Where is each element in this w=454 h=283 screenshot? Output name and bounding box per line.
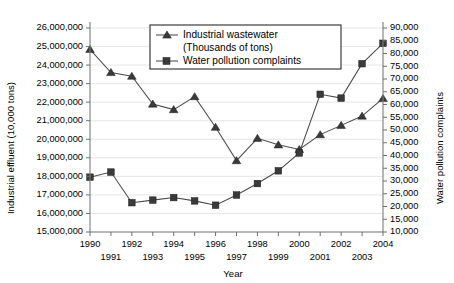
y-tick-label: 23,000,000: [36, 78, 83, 88]
x-tick-label: 1990: [80, 239, 101, 249]
legend: Industrial wastewater (Thousands of tons…: [150, 25, 341, 69]
y2-tick-label: 50,000: [390, 124, 418, 134]
y2-tick-label: 30,000: [390, 175, 418, 185]
x-tick-label: 1998: [247, 239, 268, 249]
x-tick-label: 2004: [373, 239, 394, 249]
x-tick-label: 1993: [142, 252, 163, 262]
x-tick-label: 2000: [289, 239, 310, 249]
legend-label-1-line2: (Thousands of tons): [183, 42, 273, 53]
y2-tick-label: 10,000: [390, 226, 418, 236]
x-tick-label: 1999: [268, 252, 289, 262]
y2-tick-label: 90,000: [390, 22, 418, 32]
square-icon: [163, 58, 170, 65]
y2-tick-label: 35,000: [390, 163, 418, 173]
legend-label-2: Water pollution complaints: [183, 55, 301, 66]
data-point-square: [191, 198, 198, 205]
data-point-square: [233, 192, 240, 199]
x-tick-label: 1997: [226, 252, 247, 262]
data-point-square: [338, 95, 345, 102]
x-tick-label: 1994: [163, 239, 184, 249]
y-tick-label: 22,000,000: [36, 97, 83, 107]
y2-tick-label: 75,000: [390, 61, 418, 71]
data-point-square: [254, 180, 261, 187]
y2-tick-label: 60,000: [390, 99, 418, 109]
legend-label-1: Industrial wastewater: [183, 29, 278, 40]
data-point-square: [170, 194, 177, 201]
y2-axis-title: Water pollution complaints: [434, 92, 445, 204]
y2-tick-label: 65,000: [390, 86, 418, 96]
chart-container: 15,000,00016,000,00017,000,00018,000,000…: [0, 0, 454, 283]
y-tick-label: 18,000,000: [36, 171, 83, 181]
data-point-square: [275, 168, 282, 175]
data-point-square: [149, 197, 156, 204]
x-axis-title: Year: [223, 268, 243, 279]
y2-tick-label: 15,000: [390, 214, 418, 224]
dual-axis-line-chart: 15,000,00016,000,00017,000,00018,000,000…: [0, 0, 454, 283]
y-tick-label: 16,000,000: [36, 208, 83, 218]
y2-axis-tick-labels: 10,00015,00020,00025,00030,00035,00040,0…: [390, 22, 418, 236]
data-point-square: [212, 202, 219, 209]
x-tick-label: 1992: [122, 239, 143, 249]
data-point-square: [317, 91, 324, 98]
data-point-square: [129, 199, 136, 206]
x-tick-label: 2002: [331, 239, 352, 249]
y-tick-label: 26,000,000: [36, 22, 83, 32]
y-tick-label: 24,000,000: [36, 60, 83, 70]
y2-tick-label: 85,000: [390, 35, 418, 45]
y2-tick-label: 80,000: [390, 48, 418, 58]
x-tick-label: 1995: [184, 252, 205, 262]
x-tick-label: 2003: [352, 252, 373, 262]
y2-tick-label: 55,000: [390, 112, 418, 122]
y-axis-title: Industrial effluent (10,000 tons): [5, 82, 16, 214]
y2-tick-label: 70,000: [390, 73, 418, 83]
data-point-square: [359, 60, 366, 67]
y-tick-label: 20,000,000: [36, 134, 83, 144]
data-point-square: [108, 169, 115, 176]
x-tick-label: 2001: [310, 252, 331, 262]
data-point-square: [296, 150, 303, 157]
y-tick-label: 19,000,000: [36, 152, 83, 162]
y2-tick-label: 25,000: [390, 188, 418, 198]
y-tick-label: 17,000,000: [36, 189, 83, 199]
y2-tick-label: 20,000: [390, 201, 418, 211]
y2-tick-label: 45,000: [390, 137, 418, 147]
y-tick-label: 25,000,000: [36, 41, 83, 51]
x-tick-label: 1991: [101, 252, 122, 262]
y2-tick-label: 40,000: [390, 150, 418, 160]
y-tick-label: 21,000,000: [36, 115, 83, 125]
x-tick-label: 1996: [205, 239, 226, 249]
y-tick-label: 15,000,000: [36, 226, 83, 236]
